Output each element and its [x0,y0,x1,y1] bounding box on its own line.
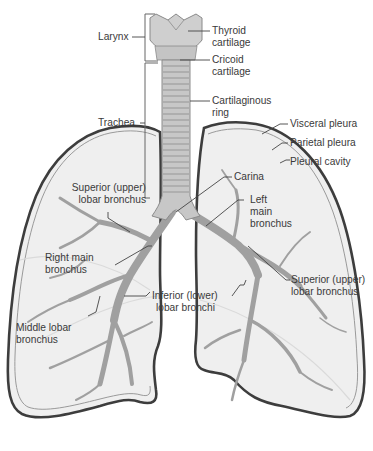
label-line: Cricoid [212,54,251,66]
label-line: bronchus [16,334,72,346]
label-line: cartilage [212,37,251,49]
label-superior-lobar-bronchus-right: Superior (upper) lobar bronchus [68,182,146,206]
label-line: Cartilaginous [212,95,271,107]
label-right-main-bronchus: Right main bronchus [45,252,94,276]
label-parietal-pleura: Parietal pleura [290,137,356,149]
label-inferior-lobar-bronchi: Inferior (lower) lobar bronchi [152,290,218,314]
label-line: Superior (upper) [291,274,365,286]
label-line: Left [250,194,292,206]
label-middle-lobar-bronchus: Middle lobar bronchus [16,322,72,346]
label-thyroid-cartilage: Thyroid cartilage [212,25,251,49]
label-line: lobar bronchus [68,194,146,206]
label-larynx: Larynx [98,31,129,43]
label-line: lobar bronchus [291,286,365,298]
label-pleural-cavity: Pleural cavity [290,156,351,168]
label-line: Inferior (lower) [152,290,218,302]
label-line: lobar bronchi [152,302,218,314]
label-left-main-bronchus: Left main bronchus [250,194,292,230]
label-line: Right main [45,252,94,264]
label-line: ring [212,107,271,119]
label-cricoid-cartilage: Cricoid cartilage [212,54,251,78]
label-cartilaginous-ring: Cartilaginous ring [212,95,271,119]
label-visceral-pleura: Visceral pleura [290,118,357,130]
label-carina: Carina [234,171,264,183]
respiratory-diagram [0,0,373,451]
label-trachea: Trachea [98,117,135,129]
label-line: Superior (upper) [68,182,146,194]
label-line: main [250,206,292,218]
label-line: bronchus [45,264,94,276]
larynx [150,14,202,60]
label-superior-lobar-bronchus-left: Superior (upper) lobar bronchus [291,274,365,298]
label-line: Thyroid [212,25,251,37]
label-line: Middle lobar [16,322,72,334]
label-line: bronchus [250,218,292,230]
label-line: cartilage [212,66,251,78]
